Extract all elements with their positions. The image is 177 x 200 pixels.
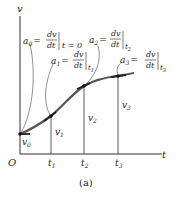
tick-t3: t3 <box>115 158 123 169</box>
svg-text:dv: dv <box>47 30 57 39</box>
annotation-a2: a2= dv dt t2 <box>89 29 131 52</box>
svg-text:dv: dv <box>111 29 121 38</box>
annotation-a1: a1= dv dt t1 <box>51 50 94 73</box>
velocity-curve <box>20 73 134 134</box>
tick-t2: t2 <box>81 158 89 169</box>
svg-text:dt: dt <box>74 61 83 70</box>
svg-text:dv: dv <box>74 50 84 59</box>
leader-a0 <box>21 44 33 133</box>
svg-text:a3=: a3= <box>120 55 138 66</box>
annotation-a3: a3= dv dt t3 <box>120 50 166 73</box>
annotation-a0: a0= dv dt t = 0 <box>23 30 82 50</box>
v-axis-label: v <box>17 3 23 14</box>
svg-text:t = 0: t = 0 <box>62 41 82 50</box>
svg-text:dt: dt <box>47 41 56 50</box>
tick-t1: t1 <box>48 158 55 169</box>
label-v3: v3 <box>122 100 131 111</box>
svg-text:dv: dv <box>146 50 156 59</box>
label-v1: v1 <box>55 127 64 138</box>
svg-text:a1=: a1= <box>51 56 69 67</box>
svg-text:a0=: a0= <box>23 36 41 47</box>
svg-text:dt: dt <box>111 40 120 49</box>
svg-text:t1: t1 <box>88 64 94 73</box>
leader-a1 <box>46 64 53 115</box>
label-v0: v0 <box>22 137 31 148</box>
figure-caption: (a) <box>79 177 93 188</box>
t-axis-label: t <box>162 149 167 160</box>
origin-label: O <box>8 157 16 168</box>
label-v2: v2 <box>88 113 97 124</box>
svg-text:t2: t2 <box>125 43 131 52</box>
svg-text:dt: dt <box>146 61 155 70</box>
svg-text:a2=: a2= <box>89 35 107 46</box>
velocity-time-diagram: v t O t1 t2 t3 v0 v1 v2 v3 a0= dv dt t =… <box>0 0 177 200</box>
svg-text:t3: t3 <box>160 64 166 73</box>
